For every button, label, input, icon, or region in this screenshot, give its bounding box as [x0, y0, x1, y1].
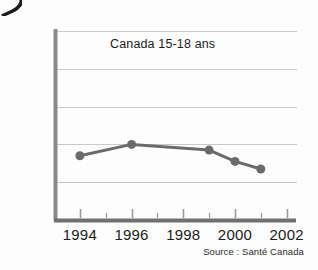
x-tick-label-2000: 2000: [218, 226, 252, 243]
gridlines-group: [54, 32, 297, 183]
x-tick-label-1994: 1994: [63, 226, 97, 243]
data-point-1994: [75, 151, 84, 160]
x-tick-label-1998: 1998: [166, 226, 200, 243]
data-point-1999: [205, 146, 214, 155]
source-note: Source : Santé Canada: [203, 246, 304, 257]
data-point-1996: [127, 140, 136, 149]
x-tick-label-1996: 1996: [114, 226, 148, 243]
x-tick-label-2002: 2002: [270, 226, 304, 243]
data-point-2001: [256, 165, 265, 174]
chart-figure: 60 %50 %40 %30 %20 %10 % 199419961998200…: [0, 0, 318, 270]
data-point-2000: [231, 157, 240, 166]
chart-title: Canada 15-18 ans: [110, 37, 215, 51]
x-tickmarks-group: [55, 209, 288, 218]
